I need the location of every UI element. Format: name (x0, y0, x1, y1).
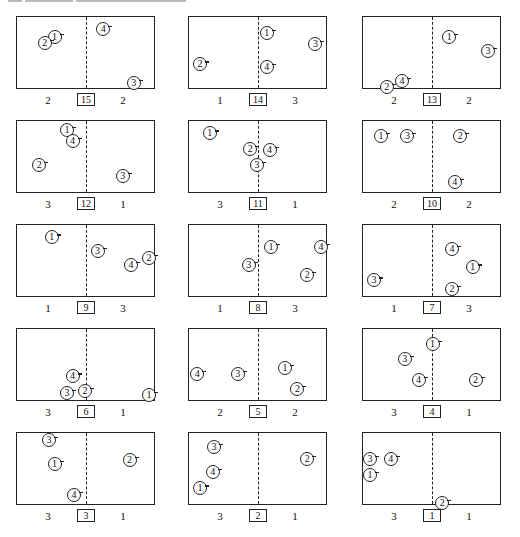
right-side-count: 1 (285, 510, 305, 522)
orientation-tick-icon (396, 456, 400, 457)
orientation-tick-icon (493, 48, 497, 49)
player-marker-1: 1 (442, 30, 456, 44)
rotation-panel-15: 12342152 (16, 16, 166, 120)
player-marker-4: 4 (66, 369, 80, 383)
orientation-tick-icon (79, 492, 83, 493)
player-number: 3 (367, 453, 372, 464)
player-marker-2: 2 (453, 129, 467, 143)
player-number: 1 (367, 469, 372, 480)
player-number: 3 (95, 245, 100, 256)
player-marker-3: 3 (367, 273, 381, 287)
panel-number-box: 4 (423, 405, 441, 418)
orientation-tick-icon (320, 41, 324, 42)
rotation-panel-4: 1234341 (362, 328, 512, 432)
right-side-count: 1 (459, 510, 479, 522)
left-side-count: 3 (38, 198, 58, 210)
court-outline: 1234 (362, 432, 501, 505)
player-number: 1 (379, 130, 384, 141)
right-side-count: 3 (113, 302, 133, 314)
panel-number-box: 15 (77, 93, 95, 106)
orientation-tick-icon (218, 469, 222, 470)
player-number: 2 (42, 37, 47, 48)
rotation-panel-1: 1234311 (362, 432, 512, 536)
left-side-count: 2 (384, 94, 404, 106)
truncated-header-text (8, 0, 238, 3)
player-marker-3: 3 (91, 244, 105, 258)
court-outline: 1234 (362, 16, 501, 89)
left-side-count: 1 (384, 302, 404, 314)
orientation-tick-icon (272, 30, 276, 31)
player-number: 4 (416, 374, 421, 385)
player-marker-3: 3 (116, 169, 130, 183)
court-outline: 1234 (362, 120, 501, 193)
player-marker-2: 2 (193, 57, 207, 71)
center-dashed-line (432, 225, 433, 296)
left-side-count: 3 (384, 406, 404, 418)
orientation-tick-icon (312, 456, 316, 457)
court-outline: 1234 (362, 224, 501, 297)
center-dashed-line (258, 433, 259, 504)
rotation-panel-6: 1234361 (16, 328, 166, 432)
player-marker-1: 1 (48, 457, 62, 471)
left-side-count: 3 (210, 510, 230, 522)
player-marker-2: 2 (243, 142, 257, 156)
panel-number-box: 10 (423, 197, 441, 210)
orientation-tick-icon (72, 127, 76, 128)
right-side-count: 3 (459, 302, 479, 314)
orientation-tick-icon (205, 61, 209, 62)
right-side-count: 3 (285, 302, 305, 314)
orientation-tick-icon (219, 444, 223, 445)
court-outline: 1234 (188, 16, 327, 89)
orientation-tick-icon (78, 373, 82, 374)
orientation-tick-icon (460, 179, 464, 180)
orientation-tick-icon (78, 138, 82, 139)
rotation-panel-2: 1234321 (188, 432, 338, 536)
player-marker-4: 4 (260, 60, 274, 74)
player-marker-4: 4 (66, 134, 80, 148)
panel-number-box: 1 (423, 509, 441, 522)
player-marker-2: 2 (300, 268, 314, 282)
orientation-tick-icon (379, 277, 383, 278)
player-number: 2 (248, 143, 253, 154)
rotation-panel-3: 1234331 (16, 432, 166, 536)
player-number: 3 (255, 159, 260, 170)
player-marker-4: 4 (263, 143, 277, 157)
orientation-tick-icon (326, 244, 330, 245)
player-number: 2 (384, 81, 389, 92)
left-side-count: 1 (210, 302, 230, 314)
player-marker-3: 3 (400, 129, 414, 143)
left-side-count: 3 (38, 406, 58, 418)
player-marker-3: 3 (308, 37, 322, 51)
player-marker-3: 3 (42, 433, 56, 447)
player-marker-2: 2 (445, 282, 459, 296)
orientation-tick-icon (255, 146, 259, 147)
orientation-tick-icon (202, 371, 206, 372)
player-number: 1 (282, 362, 287, 373)
player-number: 1 (52, 458, 57, 469)
player-number: 2 (305, 453, 310, 464)
rotation-panel-12: 12343121 (16, 120, 166, 224)
player-number: 2 (198, 58, 203, 69)
rotation-panel-8: 1234183 (188, 224, 338, 328)
player-marker-3: 3 (231, 367, 245, 381)
orientation-tick-icon (154, 255, 158, 256)
center-dashed-line (86, 225, 87, 296)
player-number: 2 (37, 159, 42, 170)
player-number: 4 (70, 135, 75, 146)
player-number: 3 (372, 274, 377, 285)
player-marker-3: 3 (481, 44, 495, 58)
left-side-count: 2 (384, 198, 404, 210)
player-marker-2: 2 (469, 373, 483, 387)
player-marker-1: 1 (203, 126, 217, 140)
court-outline: 1234 (188, 432, 327, 505)
player-number: 4 (264, 61, 269, 72)
player-number: 3 (65, 387, 70, 398)
player-number: 4 (70, 370, 75, 381)
player-marker-1: 1 (426, 337, 440, 351)
orientation-tick-icon (60, 34, 64, 35)
right-side-count: 2 (459, 198, 479, 210)
player-marker-2: 2 (38, 36, 52, 50)
player-marker-1: 1 (374, 129, 388, 143)
right-side-count: 2 (459, 94, 479, 106)
center-dashed-line (258, 17, 259, 88)
